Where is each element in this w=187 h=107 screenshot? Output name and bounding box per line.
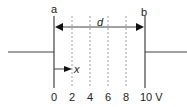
tick-0: 0 xyxy=(51,92,57,103)
tick-8: 8 xyxy=(123,92,129,103)
plate-a-label: a xyxy=(51,4,57,15)
arrowhead-left-icon xyxy=(55,23,63,31)
x-arrowhead-icon xyxy=(64,66,72,72)
tick-2: 2 xyxy=(69,92,75,103)
plate-b-label: b xyxy=(141,7,147,18)
tick-10v: 10 V xyxy=(140,92,163,103)
tick-4: 4 xyxy=(87,92,93,103)
distance-label: d xyxy=(97,17,103,28)
position-label: x xyxy=(74,64,80,75)
tick-6: 6 xyxy=(105,92,111,103)
arrowhead-right-icon xyxy=(136,23,144,31)
